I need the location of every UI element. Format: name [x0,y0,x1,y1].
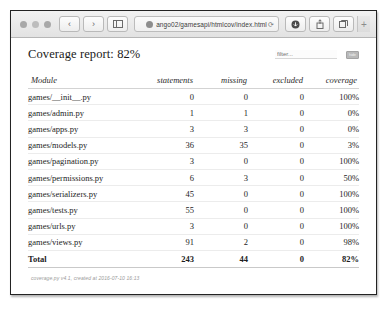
plus-icon: + [361,19,367,30]
cell-module[interactable]: games/views.py [28,234,132,250]
browser-window: ‹ › ango02/gamesapi/htmlcov/index.html ⟳ [10,10,377,295]
navigation-buttons: ‹ › [59,16,128,32]
tabs-icon [339,20,348,28]
cell-missing: 2 [194,234,248,250]
cell-module[interactable]: games/tests.py [28,202,132,218]
forward-button[interactable]: › [83,16,104,32]
cell-module[interactable]: games/pagination.py [28,153,132,169]
cell-missing: 0 [194,89,248,105]
hide-keyboard-shortcuts-badge[interactable]: hide [346,51,359,59]
cell-module[interactable]: games/__init__.py [28,89,132,105]
cell-missing: 35 [194,137,248,153]
coverage-report-page: Coverage report: 82% hide Module stateme… [11,38,376,294]
cell-coverage: 0% [304,121,359,137]
download-icon [291,20,300,29]
cell-module[interactable]: games/apps.py [28,121,132,137]
new-tab-button[interactable]: + [357,16,370,32]
report-header-tools: hide [275,50,359,59]
cell-missing: 0 [194,153,248,169]
cell-coverage: 100% [304,218,359,234]
cell-total-coverage: 82% [304,250,359,267]
cell-excluded: 0 [248,121,304,137]
cell-total-missing: 44 [194,250,248,267]
cell-excluded: 0 [248,169,304,185]
cell-coverage: 0% [304,105,359,121]
chevron-left-icon: ‹ [68,20,71,29]
close-window-button[interactable] [20,21,27,28]
share-button[interactable] [309,16,330,32]
column-header-excluded[interactable]: excluded [248,74,304,89]
cell-missing: 3 [194,169,248,185]
minimize-window-button[interactable] [32,21,39,28]
cell-missing: 3 [194,121,248,137]
cell-statements: 55 [132,202,194,218]
table-row[interactable]: games/permissions.py 6 3 0 50% [28,169,359,185]
table-row[interactable]: games/tests.py 55 0 0 100% [28,202,359,218]
table-row[interactable]: games/serializers.py 45 0 0 100% [28,186,359,202]
table-row[interactable]: games/admin.py 1 1 0 0% [28,105,359,121]
cell-coverage: 100% [304,202,359,218]
footer-note: coverage.py v4.1, created at 2016-07-10 … [28,275,359,281]
downloads-button[interactable] [285,16,306,32]
table-header-row: Module statements missing excluded cover… [28,74,359,89]
table-row[interactable]: games/views.py 91 2 0 98% [28,234,359,250]
show-tabs-button[interactable] [333,16,354,32]
cell-excluded: 0 [248,105,304,121]
cell-total-label: Total [28,250,132,267]
cell-missing: 0 [194,186,248,202]
cell-statements: 3 [132,218,194,234]
cell-coverage: 100% [304,153,359,169]
column-header-coverage[interactable]: coverage [304,74,359,89]
table-total-row: Total 243 44 0 82% [28,250,359,267]
sidebar-icon [113,20,123,28]
browser-toolbar: ‹ › ango02/gamesapi/htmlcov/index.html ⟳ [11,11,376,38]
column-header-module[interactable]: Module [28,74,132,89]
cell-module[interactable]: games/models.py [28,137,132,153]
cell-module[interactable]: games/urls.py [28,218,132,234]
column-header-statements[interactable]: statements [132,74,194,89]
table-row[interactable]: games/urls.py 3 0 0 100% [28,218,359,234]
cell-excluded: 0 [248,186,304,202]
cell-statements: 45 [132,186,194,202]
report-header: Coverage report: 82% hide [28,47,359,67]
cell-coverage: 50% [304,169,359,185]
coverage-table-body: games/__init__.py 0 0 0 100% games/admin… [28,89,359,268]
table-row[interactable]: games/pagination.py 3 0 0 100% [28,153,359,169]
globe-icon [146,21,153,28]
cell-module[interactable]: games/serializers.py [28,186,132,202]
cell-missing: 0 [194,218,248,234]
cell-statements: 36 [132,137,194,153]
cell-total-statements: 243 [132,250,194,267]
cell-module[interactable]: games/admin.py [28,105,132,121]
coverage-table: Module statements missing excluded cover… [28,74,359,268]
cell-missing: 1 [194,105,248,121]
cell-excluded: 0 [248,202,304,218]
cell-statements: 6 [132,169,194,185]
cell-excluded: 0 [248,234,304,250]
cell-statements: 3 [132,121,194,137]
table-row[interactable]: games/models.py 36 35 0 3% [28,137,359,153]
filter-input[interactable] [275,50,337,59]
cell-module[interactable]: games/permissions.py [28,169,132,185]
address-bar[interactable]: ango02/gamesapi/htmlcov/index.html ⟳ [134,16,279,32]
cell-coverage: 100% [304,186,359,202]
cell-coverage: 100% [304,89,359,105]
column-header-missing[interactable]: missing [194,74,248,89]
cell-excluded: 0 [248,137,304,153]
table-row[interactable]: games/apps.py 3 3 0 0% [28,121,359,137]
cell-statements: 0 [132,89,194,105]
toolbar-right-buttons: + [285,16,372,32]
share-icon [316,19,324,29]
table-row[interactable]: games/__init__.py 0 0 0 100% [28,89,359,105]
chevron-right-icon: › [92,20,95,29]
cell-excluded: 0 [248,89,304,105]
cell-excluded: 0 [248,153,304,169]
cell-statements: 3 [132,153,194,169]
back-button[interactable]: ‹ [59,16,80,32]
sidebar-toggle-button[interactable] [107,16,128,32]
cell-coverage: 98% [304,234,359,250]
maximize-window-button[interactable] [44,21,51,28]
reload-icon[interactable]: ⟳ [268,21,274,28]
window-traffic-lights [15,21,59,28]
cell-total-excluded: 0 [248,250,304,267]
